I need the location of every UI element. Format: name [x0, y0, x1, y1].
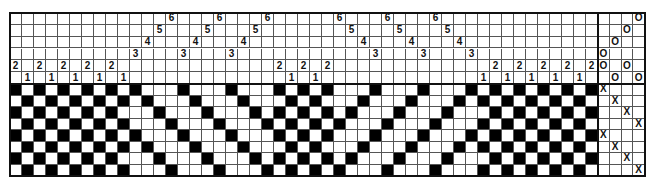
threading-cell	[118, 13, 130, 25]
drawdown-cell	[418, 153, 430, 165]
threading-cell	[526, 37, 538, 49]
threading-cell	[274, 49, 286, 61]
drawdown-cell	[430, 153, 442, 165]
tieup-cell	[622, 37, 634, 49]
drawdown-cell	[274, 119, 286, 131]
drawdown-cell	[466, 153, 478, 165]
threading-cell	[286, 60, 298, 72]
drawdown-cell	[106, 119, 118, 131]
treadling-cell	[633, 130, 645, 142]
drawdown-cell	[454, 130, 466, 142]
drawdown-cell	[274, 130, 286, 142]
drawdown-cell	[262, 107, 274, 119]
drawdown-cell	[310, 107, 322, 119]
drawdown-cell	[478, 84, 490, 96]
threading-cell	[394, 49, 406, 61]
threading-cell	[478, 13, 490, 25]
drawdown-cell	[490, 142, 502, 154]
threading-cell: 6	[430, 13, 442, 25]
drawdown-cell	[250, 84, 262, 96]
threading-cell-label: 1	[289, 73, 295, 83]
threading-cell	[418, 13, 430, 25]
threading-cell-label: 6	[337, 13, 343, 23]
threading-cell-label: 1	[577, 73, 583, 83]
drawdown-cell	[106, 96, 118, 108]
threading-cell	[58, 37, 70, 49]
threading-cell-label: 4	[193, 37, 199, 47]
drawdown-cell	[94, 130, 106, 142]
drawdown-cell	[430, 107, 442, 119]
drawdown-cell	[430, 142, 442, 154]
threading-cell	[262, 60, 274, 72]
tieup-cell	[610, 13, 622, 25]
drawdown-cell	[34, 142, 46, 154]
drawdown-cell	[394, 119, 406, 131]
threading-cell	[142, 49, 154, 61]
threading-cell-label: 2	[37, 61, 43, 71]
drawdown-cell	[10, 119, 22, 131]
drawdown-cell	[550, 142, 562, 154]
drawdown-cell	[466, 84, 478, 96]
tieup-cell	[622, 49, 634, 61]
drawdown-cell	[322, 130, 334, 142]
drawdown-cell	[346, 119, 358, 131]
drawdown-cell	[418, 119, 430, 131]
threading-cell	[310, 60, 322, 72]
threading-cell: 4	[190, 37, 202, 49]
threading-cell-label: 2	[61, 61, 67, 71]
threading-cell	[94, 37, 106, 49]
drawdown-cell	[322, 96, 334, 108]
threading-cell	[22, 49, 34, 61]
drawdown-cell	[574, 130, 586, 142]
tieup-cell	[610, 60, 622, 72]
drawdown-cell	[46, 165, 58, 177]
drawdown-cell	[358, 119, 370, 131]
drawdown-cell	[118, 107, 130, 119]
treadling-cell	[610, 153, 622, 165]
drawdown-cell	[262, 119, 274, 131]
drawdown-cell	[382, 96, 394, 108]
threading-cell	[394, 13, 406, 25]
drawdown-cell	[142, 153, 154, 165]
threading-cell	[166, 60, 178, 72]
threading-cell	[238, 49, 250, 61]
treadling-cell	[610, 119, 622, 131]
drawdown-cell	[142, 96, 154, 108]
threading-cell	[118, 49, 130, 61]
drawdown-cell	[166, 107, 178, 119]
drawdown-cell	[550, 96, 562, 108]
threading-cell	[46, 49, 58, 61]
threading-cell	[454, 49, 466, 61]
threading-cell	[538, 37, 550, 49]
threading-cell	[22, 37, 34, 49]
threading-cell	[94, 60, 106, 72]
threading-cell	[94, 13, 106, 25]
tieup-cell-label: O	[611, 73, 619, 83]
drawdown-cell	[10, 84, 22, 96]
drawdown-cell	[178, 165, 190, 177]
drawdown-cell	[442, 130, 454, 142]
drawdown-cell	[70, 142, 82, 154]
treadling-cell	[633, 142, 645, 154]
drawdown-cell	[442, 107, 454, 119]
treadling-cell: X	[610, 96, 622, 108]
threading-cell: 2	[322, 60, 334, 72]
threading-cell	[574, 37, 586, 49]
threading-cell	[322, 25, 334, 37]
threading-cell-label: 3	[373, 49, 379, 59]
drawdown-cell	[178, 96, 190, 108]
drawdown-cell	[550, 119, 562, 131]
threading-cell	[34, 25, 46, 37]
drawdown-cell	[286, 142, 298, 154]
threading-cell	[178, 25, 190, 37]
drawdown-cell	[382, 130, 394, 142]
drawdown-cell	[478, 96, 490, 108]
tieup-cell: O	[598, 49, 610, 61]
drawdown-cell	[298, 84, 310, 96]
threading-cell	[322, 37, 334, 49]
drawdown-cell	[238, 96, 250, 108]
threading-cell	[190, 60, 202, 72]
drawdown-cell	[550, 107, 562, 119]
drawdown-cell	[370, 153, 382, 165]
drawdown-cell	[502, 119, 514, 131]
